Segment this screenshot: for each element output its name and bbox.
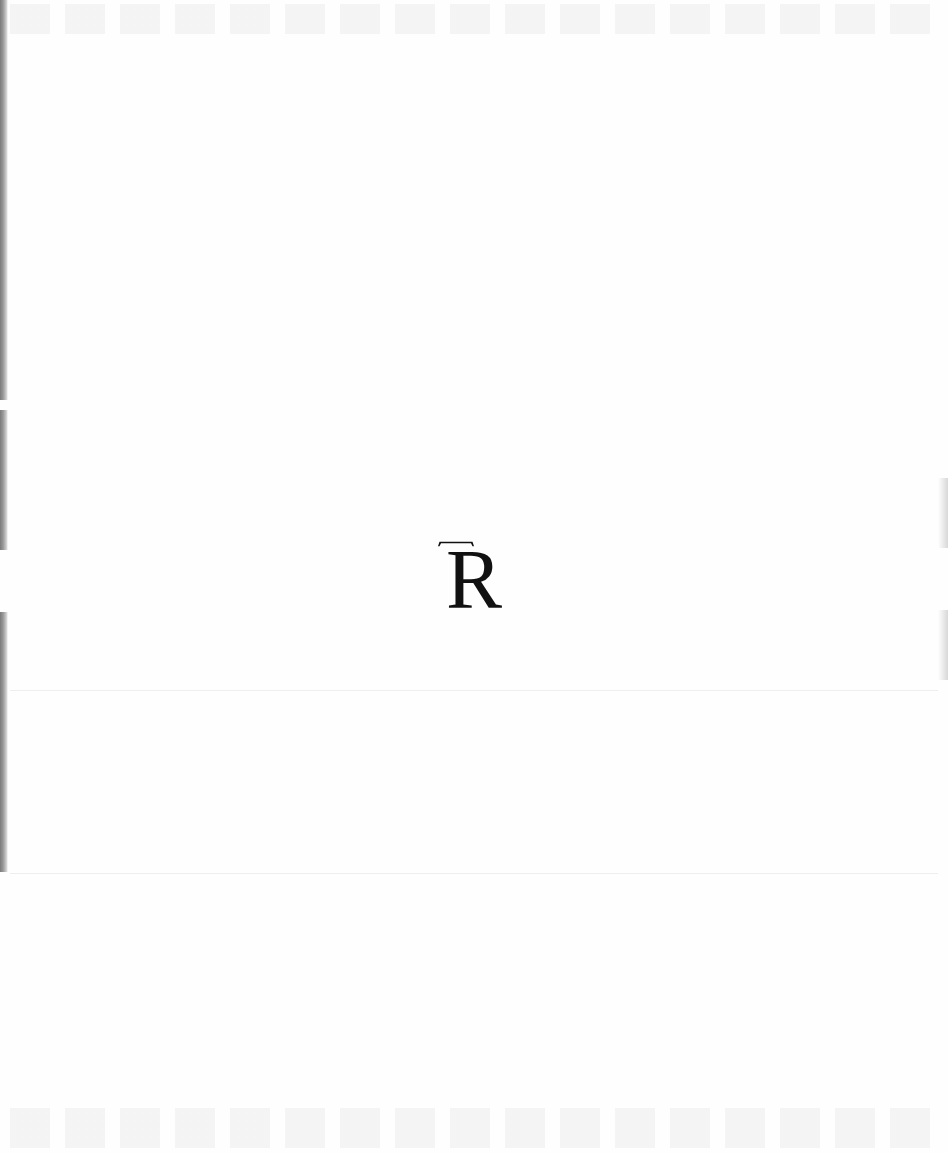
bleed-through-text (10, 1108, 938, 1148)
binding-edge (0, 410, 8, 550)
page-edge-shadow (938, 610, 948, 680)
monogram-letters: R (446, 538, 502, 622)
scanned-page: R (0, 0, 948, 1153)
fold-line (10, 690, 938, 691)
tr-monogram: R (432, 538, 516, 616)
binding-edge (0, 0, 8, 400)
binding-edge (0, 612, 8, 872)
bleed-through-text (10, 4, 938, 34)
fold-line (10, 873, 938, 874)
page-edge-shadow (938, 478, 948, 548)
